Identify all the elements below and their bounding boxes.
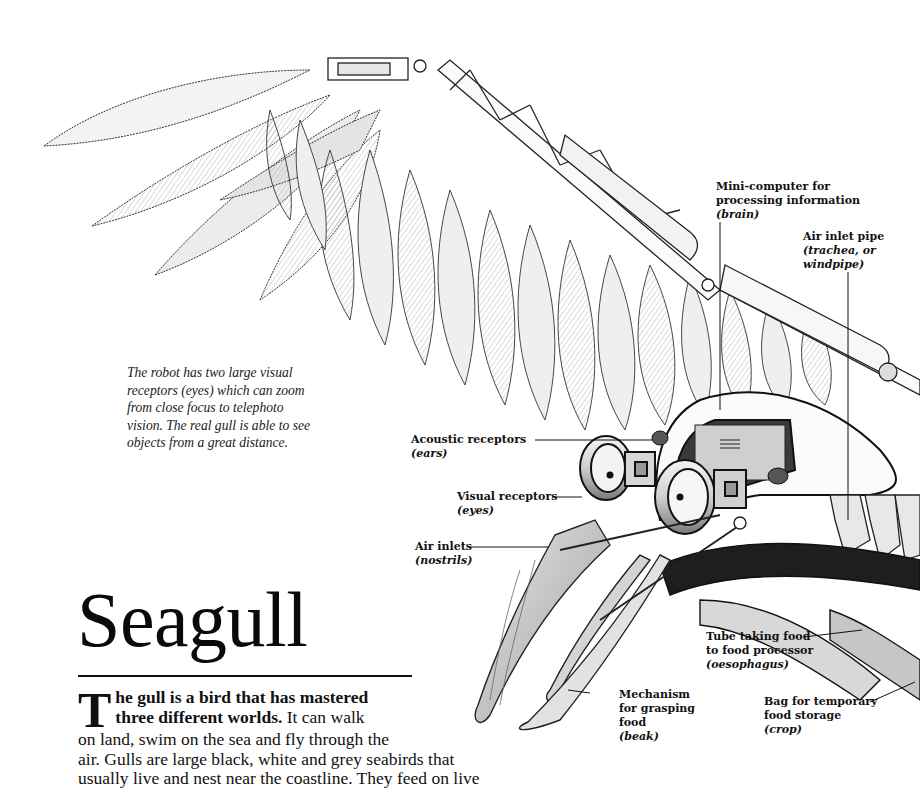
label-trachea-line: Air inlet pipe (803, 230, 884, 244)
label-eyes: Visual receptors (eyes) (457, 490, 557, 518)
label-oesophagus-sci: (oesophagus) (706, 658, 813, 672)
label-crop-line: food storage (764, 709, 878, 723)
label-nostrils-line: Air inlets (415, 540, 472, 554)
label-trachea: Air inlet pipe (trachea, or windpipe) (803, 230, 884, 272)
intro-text: It can walk (282, 707, 364, 727)
label-beak-sci: (beak) (619, 730, 695, 744)
label-ears-line: Acoustic receptors (411, 433, 526, 447)
intro-line: on land, swim on the sea and fly through… (78, 730, 538, 750)
label-oesophagus-line: to food processor (706, 644, 813, 658)
caption-line: from close focus to telephoto (127, 399, 387, 417)
label-oesophagus-line: Tube taking food (706, 630, 813, 644)
intro-lead-line: three different worlds. (115, 707, 282, 727)
caption-line: receptors (eyes) which can zoom (127, 382, 387, 400)
caption-line: vision. The real gull is able to see (127, 417, 387, 435)
label-brain-line: Mini-computer for (716, 180, 860, 194)
food-tube (660, 544, 920, 700)
label-brain: Mini-computer for processing information… (716, 180, 860, 222)
label-brain-sci: (brain) (716, 208, 860, 222)
label-trachea-sci: windpipe) (803, 258, 884, 272)
label-beak-line: Mechanism (619, 688, 695, 702)
label-ears: Acoustic receptors (ears) (411, 433, 526, 461)
eye-caption: The robot has two large visual receptors… (127, 364, 387, 452)
label-ears-sci: (ears) (411, 447, 526, 461)
label-crop: Bag for temporary food storage (crop) (764, 695, 878, 737)
intro-line: usually live and nest near the coastline… (78, 769, 538, 789)
label-brain-line: processing information (716, 194, 860, 208)
drop-cap: T (78, 690, 111, 730)
eye-right (655, 460, 746, 534)
label-beak: Mechanism for grasping food (beak) (619, 688, 695, 744)
label-crop-sci: (crop) (764, 723, 878, 737)
label-eyes-sci: (eyes) (457, 504, 557, 518)
label-trachea-sci: (trachea, or (803, 244, 884, 258)
eye-left (580, 436, 655, 500)
intro-line: air. Gulls are large black, white and gr… (78, 750, 538, 770)
caption-line: objects from a great distance. (127, 434, 387, 452)
title-rule (78, 675, 412, 677)
label-eyes-line: Visual receptors (457, 490, 557, 504)
book-page: Mini-computer for processing information… (0, 0, 920, 797)
label-nostrils-sci: (nostrils) (415, 554, 472, 568)
intro-paragraph: T he gull is a bird that has mastered th… (78, 688, 538, 789)
caption-line: The robot has two large visual (127, 364, 387, 382)
label-crop-line: Bag for temporary (764, 695, 878, 709)
page-title: Seagull (77, 572, 307, 668)
label-beak-line: for grasping (619, 702, 695, 716)
label-nostrils: Air inlets (nostrils) (415, 540, 472, 568)
intro-lead-line: he gull is a bird that has mastered (78, 688, 538, 708)
label-oesophagus: Tube taking food to food processor (oeso… (706, 630, 813, 672)
label-beak-line: food (619, 716, 695, 730)
